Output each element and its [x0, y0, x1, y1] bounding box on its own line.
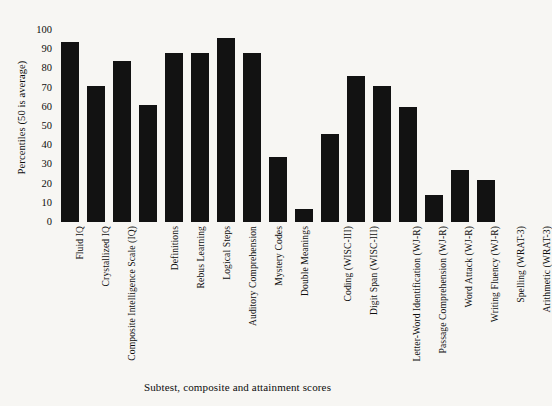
y-tick-50: 50 — [42, 120, 53, 131]
bar — [451, 170, 469, 222]
bar — [373, 86, 391, 222]
bar — [399, 107, 417, 222]
bar-column — [395, 30, 421, 222]
bar-column — [473, 30, 499, 222]
bar — [295, 209, 313, 222]
bar-group-kait-subtests — [135, 30, 291, 222]
x-tick-label: Spelling (WRAT-3) — [515, 226, 526, 376]
y-tick-40: 40 — [42, 139, 53, 150]
bar-column — [317, 30, 343, 222]
x-tick-label: Auditory Comprehension — [247, 226, 258, 376]
bar-column — [187, 30, 213, 222]
bar-column — [109, 30, 135, 222]
bar-column — [213, 30, 239, 222]
bar-group-wisc-subtests — [291, 30, 343, 222]
x-tick-label: Crystallized IQ — [100, 226, 111, 376]
x-tick-label: Definitions — [169, 226, 180, 376]
bar — [477, 180, 495, 222]
bar-column — [83, 30, 109, 222]
x-tick-label: Writing Fluency (WJ-R) — [489, 226, 500, 376]
y-tick-0: 0 — [47, 216, 52, 227]
bar-column — [421, 30, 447, 222]
x-tick-label: Logical Steps — [221, 226, 232, 376]
bar-column — [135, 30, 161, 222]
y-tick-30: 30 — [42, 159, 53, 170]
x-tick-label: Double Meanings — [299, 226, 310, 376]
x-axis-tick-labels: Fluid IQCrystallized IQComposite Intelli… — [57, 226, 467, 366]
bar-column — [161, 30, 187, 222]
x-tick-label: Digit Span (WISC-III) — [368, 226, 379, 376]
bar — [165, 53, 183, 222]
x-tick-label: Mystery Codes — [273, 226, 284, 376]
plot-area: 0102030405060708090100 — [57, 30, 467, 222]
bar — [87, 86, 105, 222]
x-tick-label: Coding (WISC-III) — [342, 226, 353, 376]
y-axis-title: Percentiles (50 is average) — [16, 18, 27, 218]
bar — [191, 53, 209, 222]
bar-series — [57, 30, 467, 222]
bar — [269, 157, 287, 222]
bar — [61, 42, 79, 222]
x-tick-label: Composite Intelligence Scale (IQ) — [126, 226, 137, 376]
y-tick-60: 60 — [42, 101, 53, 112]
y-tick-90: 90 — [42, 43, 53, 54]
x-tick-label: Word Attack (WJ-R) — [463, 226, 474, 376]
bar-group-composite-iq — [57, 30, 135, 222]
bar — [139, 105, 157, 222]
x-tick-label: Fluid IQ — [74, 226, 85, 376]
bar — [217, 38, 235, 222]
x-axis-title: Subtest, composite and attainment scores — [0, 381, 475, 393]
bar — [321, 134, 339, 222]
bar — [425, 195, 443, 222]
y-tick-70: 70 — [42, 82, 53, 93]
y-tick-100: 100 — [36, 24, 52, 35]
bar-column — [343, 30, 369, 222]
x-tick-label: Rebus Learning — [195, 226, 206, 376]
bar — [347, 76, 365, 222]
y-tick-80: 80 — [42, 63, 53, 74]
bar-column — [239, 30, 265, 222]
bar-column — [447, 30, 473, 222]
bar — [113, 61, 131, 222]
x-tick-label: Passage Comprehension (WJ-R) — [437, 226, 448, 376]
bar-column — [265, 30, 291, 222]
bar-group-attainment — [343, 30, 499, 222]
bar-column — [369, 30, 395, 222]
bar-column — [291, 30, 317, 222]
y-tick-10: 10 — [42, 197, 53, 208]
bar — [243, 53, 261, 222]
x-tick-label: Letter-Word Identification (WJ-R) — [411, 226, 422, 376]
y-tick-20: 20 — [42, 178, 53, 189]
x-tick-label: Arithmetic (WRAT-3) — [541, 226, 552, 376]
bar-column — [57, 30, 83, 222]
